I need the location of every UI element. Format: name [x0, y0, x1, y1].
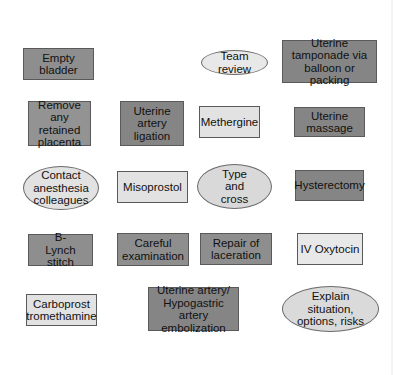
node-uterine-tamponade: Uterine tamponade via balloon or packing [282, 40, 377, 83]
node-b-lynch-stitch: B-Lynch stitch [28, 234, 93, 266]
node-label: Carboprost tromethamine [26, 298, 96, 323]
node-type-and-cross: Type and cross [197, 164, 272, 209]
node-label: Careful examination [120, 237, 186, 262]
node-label: Hysterectomy [294, 179, 364, 192]
node-label: Uterine tamponade via balloon or packing [285, 37, 374, 87]
node-hysterectomy: Hysterectomy [295, 170, 364, 201]
node-careful-examination: Careful examination [117, 233, 189, 266]
node-empty-bladder: Empty bladder [23, 48, 94, 80]
node-methergine: Methergine [199, 106, 260, 138]
node-label: Team review [204, 50, 265, 75]
node-misoprostol: Misoprostol [117, 171, 188, 203]
node-remove-placenta: Remove any retained placenta [28, 101, 91, 146]
node-uterine-massage: Uterine massage [294, 107, 365, 137]
node-label: B-Lynch stitch [41, 231, 80, 269]
node-label: Repair of laceration [211, 237, 261, 262]
node-label: Contact anesthesia colleagues [33, 169, 89, 207]
node-label: Explain situation, options, risks [291, 290, 370, 328]
node-carboprost: Carboprost tromethamine [26, 294, 97, 326]
node-label: Uterine massage [306, 110, 353, 135]
node-team-review: Team review [201, 50, 268, 75]
node-label: Empty bladder [38, 52, 79, 77]
node-embolization: Uterine artery/ Hypogastric artery embol… [148, 287, 239, 331]
node-iv-oxytocin: IV Oxytocin [297, 233, 363, 265]
node-label: Methergine [201, 116, 259, 129]
node-label: Type and cross [212, 168, 257, 206]
node-contact-anesthesia: Contact anesthesia colleagues [23, 166, 99, 210]
node-label: Misoprostol [123, 181, 182, 194]
node-explain-situation: Explain situation, options, risks [282, 286, 379, 332]
node-label: Uterine artery ligation [131, 105, 173, 143]
node-uterine-artery-ligation: Uterine artery ligation [120, 101, 184, 146]
node-label: Uterine artery/ Hypogastric artery embol… [151, 284, 236, 334]
node-repair-laceration: Repair of laceration [200, 233, 272, 265]
node-label: IV Oxytocin [301, 243, 360, 256]
node-label: Remove any retained placenta [31, 99, 88, 149]
